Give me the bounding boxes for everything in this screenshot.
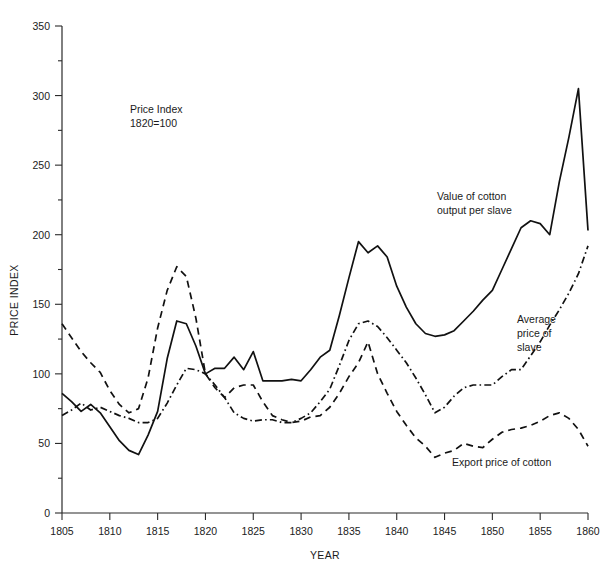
- series-path-1: [62, 246, 588, 423]
- series-label-export-price: Export price of cotton: [452, 456, 551, 468]
- x-tick-label: 1805: [50, 525, 74, 537]
- x-tick-label: 1820: [194, 525, 218, 537]
- y-tick-label: 350: [32, 20, 50, 32]
- x-axis-title: YEAR: [310, 549, 340, 561]
- price-index-note-line2: 1820=100: [130, 117, 177, 129]
- x-axis-ticks: 1805181018151820182518301835184018451850…: [50, 513, 600, 537]
- series-label-slave-price-line1: Average: [517, 313, 556, 325]
- line-chart-svg: 050100150200250300350 180518101815182018…: [0, 0, 604, 579]
- y-axis-ticks: 050100150200250300350: [32, 20, 62, 519]
- series-label-slave-price-line2: price of: [517, 327, 552, 339]
- y-tick-label: 0: [44, 507, 50, 519]
- x-tick-label: 1850: [481, 525, 505, 537]
- series-label-slave-price-line3: slave: [517, 341, 542, 353]
- x-tick-label: 1810: [98, 525, 122, 537]
- chart-container: 050100150200250300350 180518101815182018…: [0, 0, 604, 579]
- series-label-cotton-output-line2: output per slave: [437, 204, 512, 216]
- y-tick-label: 300: [32, 90, 50, 102]
- price-index-note-line1: Price Index: [130, 103, 183, 115]
- data-series-group: [62, 89, 588, 458]
- series-label-cotton-output-line1: Value of cotton: [437, 190, 506, 202]
- y-tick-label: 100: [32, 368, 50, 380]
- axes: [62, 26, 588, 513]
- x-tick-label: 1830: [289, 525, 313, 537]
- y-tick-label: 250: [32, 159, 50, 171]
- x-tick-label: 1815: [146, 525, 170, 537]
- y-tick-label: 200: [32, 229, 50, 241]
- x-tick-label: 1835: [337, 525, 361, 537]
- series-path-0: [62, 89, 588, 455]
- x-tick-label: 1840: [385, 525, 409, 537]
- series-path-2: [62, 267, 588, 458]
- y-tick-label: 150: [32, 298, 50, 310]
- y-axis-title: PRICE INDEX: [8, 264, 20, 336]
- x-tick-label: 1855: [529, 525, 553, 537]
- y-tick-label: 50: [38, 437, 50, 449]
- x-tick-label: 1845: [433, 525, 457, 537]
- x-tick-label: 1825: [242, 525, 266, 537]
- x-tick-label: 1860: [576, 525, 600, 537]
